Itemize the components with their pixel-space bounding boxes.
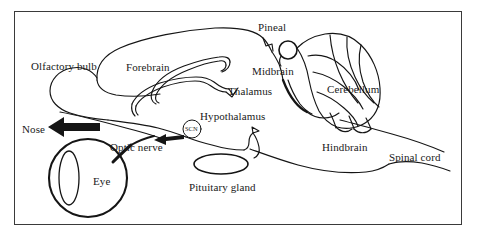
label-cerebellum: Cerebellum xyxy=(327,84,379,95)
brain-anatomy-figure: Olfactory bulb Forebrain Pineal Midbrain… xyxy=(0,0,478,233)
label-hindbrain: Hindbrain xyxy=(322,142,368,153)
label-nose: Nose xyxy=(22,124,45,135)
label-spinal-cord: Spinal cord xyxy=(389,152,441,163)
label-midbrain: Midbrain xyxy=(252,66,294,77)
label-forebrain: Forebrain xyxy=(126,62,170,73)
label-thalamus: Thalamus xyxy=(228,86,272,97)
label-optic-nerve: Optic nerve xyxy=(110,142,163,153)
label-pituitary-gland: Pituitary gland xyxy=(189,182,256,193)
label-hypothalamus: Hypothalamus xyxy=(200,111,265,122)
label-pineal: Pineal xyxy=(258,22,286,33)
label-eye: Eye xyxy=(93,176,110,187)
label-scn: SCN xyxy=(185,126,198,133)
label-olfactory-bulb: Olfactory bulb xyxy=(31,61,97,72)
